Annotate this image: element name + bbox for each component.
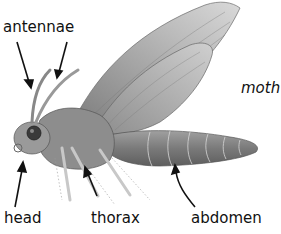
abdomen-label: abdomen xyxy=(191,211,262,226)
abdomen-shape xyxy=(105,131,258,166)
eye xyxy=(27,126,41,140)
thorax-label: thorax xyxy=(91,211,140,226)
head-label: head xyxy=(4,211,41,226)
moth-title-label: moth xyxy=(241,81,280,96)
antennae-label: antennae xyxy=(3,20,74,35)
